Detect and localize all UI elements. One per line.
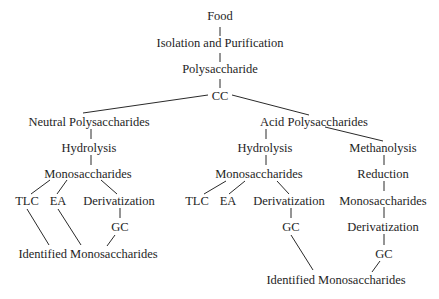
node-acid-tlc: TLC <box>185 195 209 208</box>
node-methanolysis-derivatization: Derivatization <box>347 221 419 234</box>
node-methanolysis: Methanolysis <box>349 142 416 155</box>
node-neutral-gc: GC <box>111 221 128 234</box>
node-neutral-ea: EA <box>50 195 67 208</box>
node-acid-hydrolysis: Hydrolysis <box>238 142 293 155</box>
node-food: Food <box>207 10 233 23</box>
node-isolation-purification: Isolation and Purification <box>156 37 283 50</box>
node-cc: CC <box>212 90 229 103</box>
node-acid-gc: GC <box>282 221 299 234</box>
node-neutral-tlc: TLC <box>15 195 39 208</box>
node-neutral-hydrolysis: Hydrolysis <box>62 142 117 155</box>
node-methanolysis-monosaccharides: Monosaccharides <box>339 195 426 208</box>
node-acid-monosaccharides: Monosaccharides <box>215 168 302 181</box>
node-neutral-polysaccharides: Neutral Polysaccharides <box>28 116 149 129</box>
node-neutral-monosaccharides: Monosaccharides <box>44 168 131 181</box>
node-neutral-derivatization: Derivatization <box>83 195 155 208</box>
node-neutral-identified-monosaccharides: Identified Monosaccharides <box>18 248 157 261</box>
node-methanolysis-gc: GC <box>375 248 392 261</box>
node-acid-derivatization: Derivatization <box>253 195 325 208</box>
node-acid-ea: EA <box>220 195 237 208</box>
node-reduction: Reduction <box>357 168 408 181</box>
node-polysaccharide: Polysaccharide <box>182 63 258 76</box>
node-acid-polysaccharides: Acid Polysaccharides <box>260 116 368 129</box>
polysaccharide-analysis-flowchart: Food Isolation and Purification Polysacc… <box>0 0 439 299</box>
node-acid-identified-monosaccharides: Identified Monosaccharides <box>266 274 405 287</box>
